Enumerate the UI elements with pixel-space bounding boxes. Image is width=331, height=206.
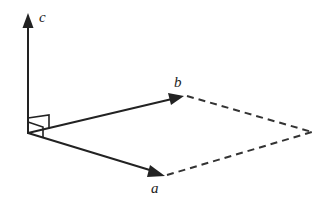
label-a: a [151, 180, 159, 196]
arrowhead-c-icon [23, 13, 34, 28]
label-b: b [174, 74, 182, 90]
vector-b: b [28, 74, 184, 133]
arrowhead-b-icon [168, 93, 184, 105]
dashed-completion [167, 96, 312, 175]
arrowhead-a-icon [147, 165, 165, 177]
vector-diagram: c b a [0, 0, 331, 206]
vector-a: a [28, 133, 165, 196]
right-angle-c-b-icon [28, 115, 49, 129]
label-c: c [39, 9, 46, 25]
vector-c: c [23, 9, 47, 133]
